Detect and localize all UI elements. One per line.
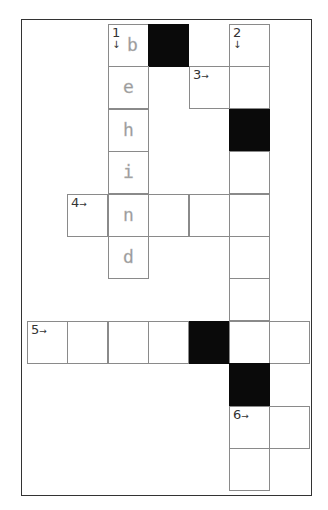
crossword-cell[interactable]: 5→ [27,321,68,364]
arrow-right-icon: → [241,411,249,421]
crossword-cell[interactable] [229,194,270,237]
clue-number: 3→ [193,68,209,83]
crossword-cell[interactable] [229,278,270,321]
cell-letter: i [109,161,148,182]
black-cell [229,109,270,152]
crossword-cell[interactable]: 3→ [189,66,230,109]
black-cell [148,24,189,67]
crossword-cell[interactable] [269,321,310,364]
clue-number: 2 [233,26,241,40]
crossword-cell[interactable] [229,151,270,194]
crossword-cell[interactable] [229,321,270,364]
crossword-cell[interactable]: n [108,194,149,237]
cell-letter: b [117,34,148,55]
crossword-cell[interactable]: h [108,109,149,152]
crossword-cell[interactable] [229,66,270,109]
crossword-cell[interactable] [148,194,189,237]
black-cell [229,363,270,406]
crossword-cell[interactable] [229,236,270,279]
crossword-cell[interactable] [189,194,230,237]
cell-letter: n [109,204,148,225]
cell-letter: e [109,76,148,97]
crossword-cell[interactable]: 6→ [229,406,270,449]
arrow-right-icon: → [79,199,87,209]
crossword-cell[interactable] [108,321,149,364]
clue-number: 6→ [233,408,249,423]
black-cell [189,321,230,364]
crossword-cell[interactable] [269,406,310,449]
crossword-cell[interactable] [148,321,189,364]
clue-number: 5→ [31,323,47,338]
cell-letter: h [109,119,148,140]
crossword-cell[interactable]: d [108,236,149,279]
arrow-down-icon: ↓ [233,40,241,50]
crossword-cell[interactable]: 4→ [67,194,108,237]
arrow-right-icon: → [39,326,47,336]
cell-letter: d [109,246,148,267]
crossword-cell[interactable]: 1↓b [108,24,149,67]
crossword-cell[interactable] [229,448,270,491]
crossword-cell[interactable]: 2↓ [229,24,270,67]
crossword-cell[interactable]: i [108,151,149,194]
arrow-right-icon: → [201,71,209,81]
crossword-cell[interactable]: e [108,66,149,109]
clue-number: 4→ [71,196,87,211]
crossword-cell[interactable] [67,321,108,364]
